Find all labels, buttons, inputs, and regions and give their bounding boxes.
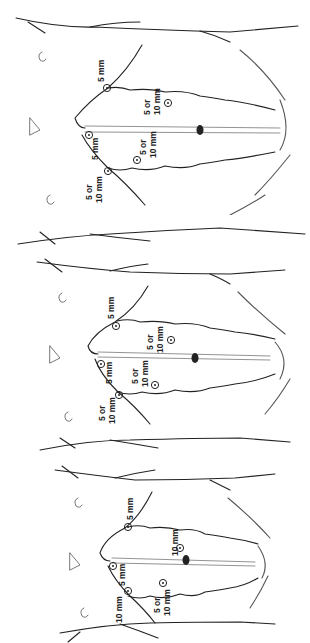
- port-label: 10 mm: [107, 397, 117, 424]
- port-label: 10 mm: [152, 88, 162, 115]
- torso-panel-3: 5 mm 10 mm 5 mm 5 or 10 mm 10 mm: [0, 428, 310, 643]
- port-label: 5 or: [84, 184, 94, 200]
- port-label: 5 mm: [96, 59, 106, 82]
- port-label: 10 mm: [170, 529, 180, 556]
- port-label: 5 or: [97, 405, 107, 421]
- port-label: 10 mm: [155, 326, 165, 353]
- port-label: 5 mm: [90, 137, 100, 160]
- port-label: 5 mm: [104, 361, 114, 384]
- torso-diagram-1: 5 mm 5 or 10 mm 5 mm 5 or 10 mm 5 or 10 …: [0, 0, 310, 215]
- torso-panel-2: 5 mm 5 or 10 mm 5 mm 5 or 10 mm 5 or 10 …: [0, 214, 310, 429]
- port-label: 5 or: [145, 334, 155, 350]
- port-label: 5 or: [138, 139, 148, 155]
- port-label: 10 mm: [162, 589, 172, 616]
- port-label: 10 mm: [148, 131, 158, 158]
- port-label: 5 mm: [106, 296, 116, 319]
- torso-diagram-2: 5 mm 5 or 10 mm 5 mm 5 or 10 mm 5 or 10 …: [0, 214, 310, 429]
- port-label: 5 mm: [125, 497, 135, 520]
- port-label: 5 mm: [117, 563, 127, 586]
- port-label: 10 mm: [94, 176, 104, 203]
- port-label: 5 or: [130, 368, 140, 384]
- port-label: 5 or: [152, 597, 162, 613]
- torso-panel-1: 5 mm 5 or 10 mm 5 mm 5 or 10 mm 5 or 10 …: [0, 0, 310, 215]
- torso-diagram-3: 5 mm 10 mm 5 mm 5 or 10 mm 10 mm: [0, 428, 310, 643]
- port-label: 5 or: [142, 99, 152, 115]
- port-label: 10 mm: [114, 596, 124, 623]
- port-label: 10 mm: [140, 360, 150, 387]
